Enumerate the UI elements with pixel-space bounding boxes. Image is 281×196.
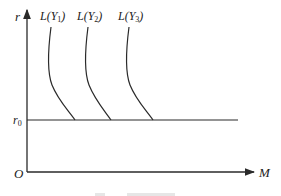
curve-L-Y3 — [127, 27, 154, 120]
curve-L-Y1 — [49, 27, 76, 120]
curve-label-L-Y1: L(Y1) — [40, 10, 65, 24]
curve-label-close: ) — [98, 9, 102, 23]
diagram-canvas — [0, 0, 281, 196]
curve-label-text: L(Y — [40, 9, 57, 23]
curve-label-L-Y2: L(Y2) — [77, 10, 102, 24]
origin-label: O — [14, 167, 23, 180]
curve-label-close: ) — [139, 9, 143, 23]
curve-label-text: L(Y — [118, 9, 135, 23]
curve-label-text: L(Y — [77, 9, 94, 23]
r0-label-sub: 0 — [18, 119, 22, 128]
curve-label-L-Y3: L(Y3) — [118, 10, 143, 24]
curve-L-Y2 — [86, 27, 112, 120]
figure-caption-clipped — [95, 191, 185, 196]
x-axis-label: M — [259, 166, 270, 179]
y-axis-label: r — [15, 10, 20, 23]
money-demand-diagram: r O M r0 L(Y1) L(Y2) L(Y3) — [0, 0, 281, 196]
r0-label: r0 — [13, 114, 22, 128]
curve-label-close: ) — [61, 9, 65, 23]
